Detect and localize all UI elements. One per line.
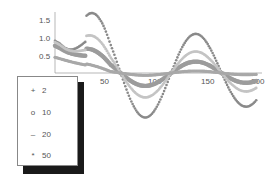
data-point-series-10 bbox=[254, 79, 258, 83]
data-point-series-2 bbox=[107, 37, 110, 40]
data-point-series-2 bbox=[179, 51, 182, 54]
data-point-series-2 bbox=[174, 62, 177, 65]
data-point-series-2 bbox=[215, 59, 218, 62]
data-point-series-2 bbox=[125, 88, 128, 91]
data-point-series-2 bbox=[177, 53, 180, 56]
legend-item-50: * 50 bbox=[18, 150, 77, 164]
data-point-series-2 bbox=[103, 27, 106, 30]
data-point-series-2 bbox=[225, 81, 228, 84]
data-point-series-10 bbox=[83, 54, 87, 58]
data-point-series-2 bbox=[131, 103, 134, 106]
data-point-series-2 bbox=[101, 22, 104, 25]
data-point-series-2 bbox=[164, 87, 167, 90]
data-point-series-2 bbox=[105, 30, 108, 33]
legend-label: 50 bbox=[42, 151, 51, 160]
data-point-series-2 bbox=[210, 49, 213, 52]
data-point-series-2 bbox=[226, 84, 229, 87]
y-tick-1.0: 1.0 bbox=[39, 34, 51, 43]
data-point-series-2 bbox=[130, 100, 133, 103]
data-point-series-2 bbox=[102, 25, 105, 28]
legend-item-10: o 10 bbox=[18, 107, 77, 121]
x-tick-50: 50 bbox=[100, 77, 109, 86]
legend-item-20: – 20 bbox=[18, 129, 77, 143]
legend-label: 20 bbox=[42, 130, 51, 139]
data-point-series-2 bbox=[116, 60, 119, 63]
data-point-series-2 bbox=[175, 59, 178, 62]
data-point-series-2 bbox=[113, 54, 116, 57]
data-point-series-2 bbox=[124, 85, 127, 88]
data-point-series-2 bbox=[84, 41, 87, 44]
data-point-series-2 bbox=[106, 33, 109, 36]
data-point-series-2 bbox=[165, 84, 168, 87]
data-point-series-2 bbox=[213, 54, 216, 57]
data-point-series-2 bbox=[180, 48, 183, 51]
data-point-series-2 bbox=[157, 103, 160, 106]
data-point-series-2 bbox=[100, 20, 103, 23]
plus-marker-icon: + bbox=[28, 86, 38, 95]
y-tick-1.5: 1.5 bbox=[39, 16, 51, 25]
legend-label: 2 bbox=[42, 86, 46, 95]
data-point-series-2 bbox=[159, 98, 162, 101]
data-point-series-2 bbox=[123, 82, 126, 85]
data-point-series-2 bbox=[160, 96, 163, 99]
legend: + 2 o 10 – 20 * 50 bbox=[17, 76, 78, 166]
data-point-series-2 bbox=[108, 40, 111, 43]
data-point-series-2 bbox=[176, 56, 179, 59]
legend-label: 10 bbox=[42, 108, 51, 117]
data-point-series-2 bbox=[166, 81, 169, 84]
data-point-series-2 bbox=[128, 95, 131, 98]
data-point-series-20 bbox=[84, 49, 87, 52]
star-marker-icon: * bbox=[28, 151, 38, 160]
dash-marker-icon: – bbox=[28, 130, 38, 139]
data-point-series-2 bbox=[158, 101, 161, 104]
data-point-series-2 bbox=[255, 99, 258, 102]
data-point-series-2 bbox=[214, 57, 217, 60]
data-point-series-20 bbox=[255, 87, 258, 90]
data-point-series-2 bbox=[114, 57, 117, 60]
data-point-series-2 bbox=[126, 92, 129, 95]
legend-item-2: + 2 bbox=[18, 85, 77, 99]
data-point-series-2 bbox=[228, 88, 231, 91]
data-point-series-2 bbox=[211, 52, 214, 55]
data-point-series-2 bbox=[209, 47, 212, 50]
x-tick-150: 150 bbox=[201, 77, 215, 86]
data-point-series-2 bbox=[162, 93, 165, 96]
data-point-series-2 bbox=[110, 44, 113, 47]
data-point-series-2 bbox=[216, 62, 219, 65]
y-tick-0.5: 0.5 bbox=[39, 52, 51, 61]
data-point-series-2 bbox=[227, 86, 230, 89]
data-point-series-2 bbox=[163, 90, 166, 93]
data-point-series-2 bbox=[129, 97, 132, 100]
data-point-series-2 bbox=[111, 47, 114, 50]
circle-marker-icon: o bbox=[28, 108, 38, 117]
data-point-series-2 bbox=[112, 50, 115, 53]
data-point-series-2 bbox=[181, 46, 184, 49]
data-point-series-50 bbox=[255, 73, 258, 76]
data-point-series-2 bbox=[156, 105, 159, 108]
